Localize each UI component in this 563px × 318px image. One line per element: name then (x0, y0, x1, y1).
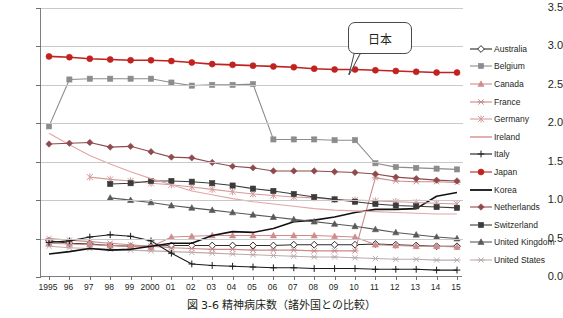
x-axis-tick (110, 276, 111, 280)
legend-marker-icon (468, 146, 494, 162)
legend-item-japan[interactable]: Japan (468, 163, 560, 181)
gridline (41, 123, 463, 124)
legend-item-korea[interactable]: Korea (468, 181, 560, 199)
x-axis-tick (335, 276, 336, 280)
japan-callout: 日本 (348, 22, 412, 54)
legend-marker-icon (468, 234, 494, 250)
y-axis-tick (36, 123, 41, 124)
figure-caption: 図 3-6 精神病床数（諸外国との比較） (0, 296, 563, 312)
x-axis-tick (355, 276, 356, 280)
legend-marker-icon (468, 199, 494, 215)
legend-item-label: United Kingdom (494, 237, 554, 247)
x-axis-tick (69, 276, 70, 280)
y-axis-tick (36, 162, 41, 163)
legend-item-label: Ireland (494, 132, 520, 142)
x-axis-tick (314, 276, 315, 280)
legend-item-label: Netherlands (494, 202, 540, 212)
x-axis-tick (375, 276, 376, 280)
x-axis-tick-label: 15 (442, 282, 470, 292)
legend-item-label: Italy (494, 149, 510, 159)
legend-marker-icon (468, 58, 494, 74)
legend: AustraliaBelgiumCanadaFranceGermanyIrela… (468, 40, 560, 269)
gridline (41, 8, 463, 9)
x-axis-tick (273, 276, 274, 280)
legend-item-belgium[interactable]: Belgium (468, 58, 560, 76)
y-axis-tick (36, 46, 41, 47)
x-axis-tick (396, 276, 397, 280)
legend-item-germany[interactable]: Germany (468, 110, 560, 128)
x-axis-tick (437, 276, 438, 280)
x-axis-tick (131, 276, 132, 280)
legend-item-united-states[interactable]: United States (468, 251, 560, 269)
legend-marker-icon (468, 217, 494, 233)
legend-item-label: Germany (494, 114, 529, 124)
x-axis-tick (212, 276, 213, 280)
x-axis-tick (416, 276, 417, 280)
legend-item-label: Korea (494, 185, 517, 195)
gridline (41, 85, 463, 86)
y-axis-tick-label: 0.0 (529, 271, 563, 282)
y-axis-tick (36, 200, 41, 201)
series-japan (46, 53, 460, 75)
legend-item-label: Belgium (494, 61, 525, 71)
japan-callout-label: 日本 (368, 30, 392, 47)
y-axis-tick (36, 239, 41, 240)
chart-root: 0.00.51.01.52.02.53.03.5 199596979899200… (0, 0, 563, 318)
legend-item-switzerland[interactable]: Switzerland (468, 216, 560, 234)
legend-item-canada[interactable]: Canada (468, 75, 560, 93)
x-axis-tick (294, 276, 295, 280)
x-axis-tick (49, 276, 50, 280)
x-axis-tick (233, 276, 234, 280)
legend-item-label: Canada (494, 79, 524, 89)
gridline (41, 200, 463, 201)
gridline (41, 162, 463, 163)
legend-item-italy[interactable]: Italy (468, 146, 560, 164)
y-axis-tick (36, 8, 41, 9)
y-axis-tick (36, 277, 41, 278)
legend-marker-icon (468, 94, 494, 110)
legend-marker-icon (468, 41, 494, 57)
x-axis-tick (253, 276, 254, 280)
legend-marker-icon (468, 129, 494, 145)
legend-marker-icon (468, 164, 494, 180)
legend-marker-icon (468, 76, 494, 92)
legend-marker-icon (468, 111, 494, 127)
legend-item-label: United States (494, 255, 545, 265)
legend-item-label: Japan (494, 167, 517, 177)
legend-item-united-kingdom[interactable]: United Kingdom (468, 234, 560, 252)
y-axis-tick (36, 85, 41, 86)
x-axis-tick (192, 276, 193, 280)
gridline (41, 239, 463, 240)
legend-item-ireland[interactable]: Ireland (468, 128, 560, 146)
legend-item-france[interactable]: France (468, 93, 560, 111)
legend-item-netherlands[interactable]: Netherlands (468, 198, 560, 216)
legend-item-label: Australia (494, 44, 527, 54)
x-axis-tick (151, 276, 152, 280)
legend-marker-icon (468, 182, 494, 198)
y-axis-tick-label: 3.5 (529, 2, 563, 13)
legend-item-australia[interactable]: Australia (468, 40, 560, 58)
legend-item-label: France (494, 97, 520, 107)
x-axis-tick (90, 276, 91, 280)
x-axis-tick (171, 276, 172, 280)
legend-marker-icon (468, 252, 494, 268)
x-axis-tick (457, 276, 458, 280)
legend-item-label: Switzerland (494, 220, 538, 230)
